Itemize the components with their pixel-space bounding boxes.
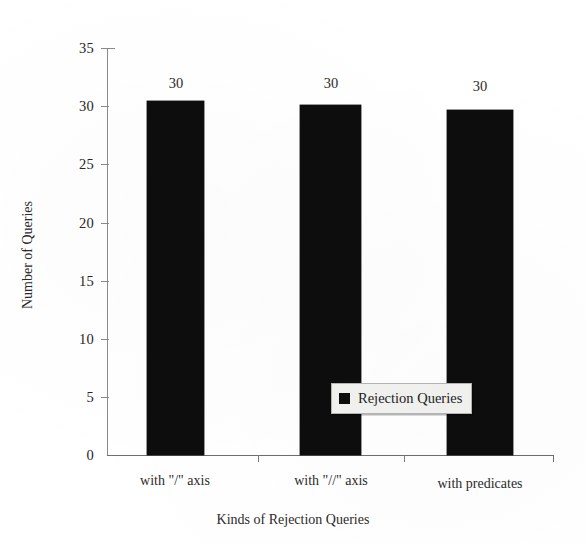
- y-tick-label-25: 25: [54, 157, 94, 172]
- y-tick-10: [101, 339, 109, 340]
- y-tick-label-20: 20: [54, 216, 94, 231]
- y-tick-20: [101, 223, 109, 224]
- bar-value-label-1: 30: [146, 76, 206, 91]
- y-tick-label-10: 10: [54, 332, 94, 347]
- y-tick-30: [101, 106, 109, 107]
- legend-swatch-icon: [339, 393, 350, 404]
- y-tick-label-15: 15: [54, 274, 94, 289]
- bar-value-label-2: 30: [301, 76, 361, 91]
- y-tick-5: [101, 397, 109, 398]
- x-category-label-3: with predicates: [410, 477, 550, 491]
- chart-legend: Rejection Queries: [331, 383, 472, 414]
- y-axis-title: Number of Queries: [21, 175, 35, 335]
- x-axis-line: [107, 455, 554, 456]
- x-tick-1: [258, 455, 259, 462]
- x-axis-title: Kinds of Rejection Queries: [0, 513, 586, 527]
- y-tick-15: [101, 281, 109, 282]
- y-axis-line: [107, 48, 108, 456]
- y-tick-label-30: 30: [54, 99, 94, 114]
- x-category-label-1: with "/" axis: [105, 474, 245, 488]
- y-tick-25: [101, 164, 109, 165]
- legend-label-rejection-queries: Rejection Queries: [358, 391, 462, 406]
- y-tick-label-0: 0: [54, 448, 94, 463]
- x-tick-2: [404, 455, 405, 462]
- bar-chart-figure: 35 30 25 20 15 10 5 0 30 30 30 with "/" …: [0, 0, 586, 544]
- x-category-label-2: with "//" axis: [261, 474, 401, 488]
- y-tick-label-35: 35: [54, 41, 94, 56]
- y-tick-35: [101, 48, 109, 49]
- bar-with-slash-axis: [147, 101, 204, 455]
- y-axis-top-cap: [108, 48, 115, 49]
- x-axis-end-cap: [553, 455, 554, 462]
- y-tick-label-5: 5: [54, 390, 94, 405]
- bar-value-label-3: 30: [450, 79, 510, 94]
